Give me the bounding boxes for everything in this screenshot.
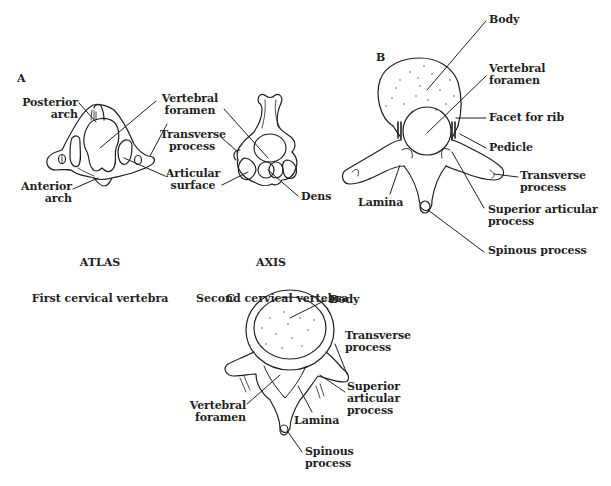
axis-drawing — [234, 94, 297, 185]
caption-axis-subtitle: Second cervical vertebra — [196, 293, 346, 305]
label-transverse-process-b: Transverse process — [520, 170, 586, 194]
label-articular-surface-a: Articular surface — [164, 168, 222, 192]
caption-atlas-title: ATLAS — [30, 257, 170, 269]
label-pedicle-b: Pedicle — [489, 142, 533, 154]
label-transverse-process-c: Transverse process — [345, 330, 411, 354]
label-axis-dens: Dens — [301, 191, 331, 203]
label-transverse-process-a: Transverse process — [160, 129, 224, 153]
caption-atlas-subtitle: First cervical vertebra — [30, 293, 170, 305]
caption-axis: AXIS Second cervical vertebra — [196, 233, 346, 329]
vertebrae-figure: A B C Posterior arch Anterior arch Verte… — [0, 0, 611, 486]
caption-axis-title: AXIS — [196, 257, 346, 269]
label-vertebral-foramen-c: Vertebral foramen — [186, 400, 246, 424]
label-atlas-posterior-arch: Posterior arch — [18, 97, 78, 121]
label-lamina-c: Lamina — [294, 415, 339, 427]
label-superior-articular-process-b: Superior articular process — [488, 204, 598, 228]
label-superior-articular-process-c: Superior articular process — [347, 381, 400, 417]
label-facet-for-rib-b: Facet for rib — [489, 112, 564, 124]
caption-atlas: ATLAS First cervical vertebra — [30, 233, 170, 329]
label-vertebral-foramen-a: Vertebral foramen — [158, 93, 222, 117]
thoracic-vertebra-drawing — [343, 58, 504, 213]
panel-letter-a: A — [17, 72, 26, 85]
label-lamina-b: Lamina — [358, 197, 403, 209]
label-spinous-process-b: Spinous process — [488, 245, 587, 257]
label-vertebral-foramen-b: Vertebral foramen — [489, 63, 545, 87]
label-atlas-anterior-arch: Anterior arch — [18, 181, 72, 205]
label-body-c: Body — [329, 294, 359, 306]
panel-letter-b: B — [376, 51, 385, 64]
label-body-b: Body — [489, 14, 519, 26]
label-spinous-process-c: Spinous process — [305, 446, 354, 470]
